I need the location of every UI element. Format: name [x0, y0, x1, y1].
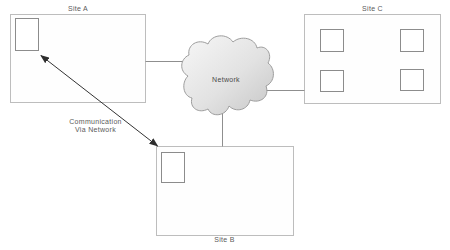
communication-annotation: Communication Via Network [58, 118, 133, 134]
communication-annotation-line2: Via Network [58, 126, 133, 134]
network-diagram: Site A Site C Site B Network Communicati… [0, 0, 450, 250]
site-c-device-top-right [401, 30, 424, 52]
site-c-label: Site C [304, 5, 441, 13]
site-c-device-bottom-right [401, 70, 424, 91]
site-c-device-top-left [321, 30, 344, 52]
site-c-device-bottom-left [321, 71, 344, 92]
site-a-label: Site A [10, 5, 146, 13]
site-a-device [16, 19, 39, 51]
site-b-label: Site B [156, 236, 293, 244]
communication-annotation-line1: Communication [58, 118, 133, 126]
site-b-device [162, 153, 185, 183]
network-label: Network [200, 76, 252, 84]
